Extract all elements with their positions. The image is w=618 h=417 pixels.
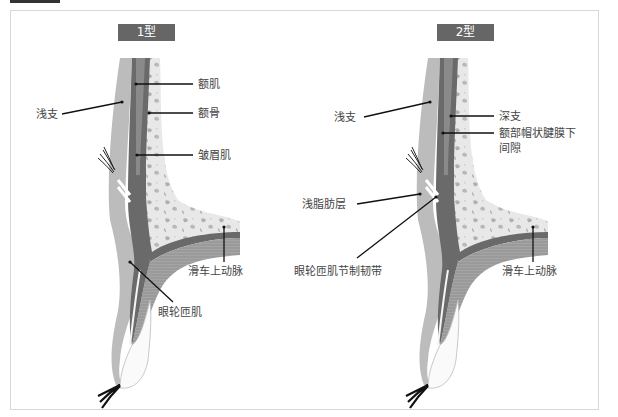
label-orbicularis-retaining-ligament: 眼轮匝肌节制韧带 [294, 265, 382, 278]
label-subgaleal-space: 额部帽状腱膜下 [499, 127, 576, 140]
panel-1-title-badge: 1型 [118, 24, 175, 41]
label-frontalis: 额肌 [198, 78, 220, 91]
label-corrugator: 皱眉肌 [198, 149, 231, 162]
label-subgaleal-space-line2: 间隙 [499, 142, 521, 155]
label-supratrochlear-artery: 滑车上动脉 [188, 265, 243, 278]
label-frontal-bone: 额骨 [198, 107, 220, 120]
label-deep-branch: 深支 [499, 110, 521, 123]
label-superficial-branch: 浅支 [36, 108, 58, 121]
label-orbicularis-oculi: 眼轮匝肌 [158, 306, 202, 319]
panel-2-title-badge: 2型 [437, 24, 494, 41]
label-supratrochlear-artery: 滑车上动脉 [502, 265, 557, 278]
label-superficial-fat-layer: 浅脂肪层 [302, 198, 346, 211]
label-superficial-branch: 浅支 [334, 111, 356, 124]
